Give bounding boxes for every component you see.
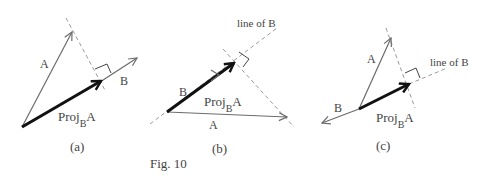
vector-a-label: A xyxy=(40,57,49,71)
right-angle-mark xyxy=(239,52,249,67)
projection-label: ProjBA xyxy=(58,109,96,129)
projection-label: ProjBA xyxy=(204,94,242,114)
panel-c: line of B A B ProjBA (c) xyxy=(322,28,469,153)
vector-b-label: B xyxy=(120,74,128,88)
figure-caption: Fig. 10 xyxy=(150,156,187,171)
line-of-b-dashed xyxy=(409,68,447,84)
projection-label: ProjBA xyxy=(376,110,414,130)
vector-b-label: B xyxy=(334,101,342,115)
vector-a-arrow xyxy=(359,38,391,109)
vector-a-label: A xyxy=(367,52,376,66)
panel-label: (c) xyxy=(376,138,390,153)
vector-b-label: B xyxy=(179,85,187,99)
line-of-b-label: line of B xyxy=(237,17,276,29)
panel-label: (a) xyxy=(70,139,84,154)
vector-b-arrow xyxy=(100,58,137,82)
right-angle-mark xyxy=(405,68,420,78)
vector-a-label: A xyxy=(209,118,218,132)
line-of-b-label: line of B xyxy=(430,56,469,68)
projection-arrow xyxy=(359,84,409,109)
panel-a: A B ProjBA (a) xyxy=(22,18,137,154)
vector-projection-figure: A B ProjBA (a) line of B B A ProjBA (b) xyxy=(0,0,483,185)
right-angle-mark xyxy=(95,64,111,73)
panel-label: (b) xyxy=(212,141,227,156)
panel-b: line of B B A ProjBA (b) xyxy=(150,17,294,156)
